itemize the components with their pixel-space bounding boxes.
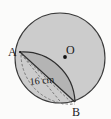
point-a-dot [19, 51, 21, 53]
label-center-o: O [66, 43, 75, 57]
label-point-a: A [8, 45, 17, 59]
label-point-b: B [72, 105, 80, 119]
geometry-diagram-svg: A O B 16 cm [0, 0, 111, 119]
circle-geometry-figure: A O B 16 cm [0, 0, 111, 119]
